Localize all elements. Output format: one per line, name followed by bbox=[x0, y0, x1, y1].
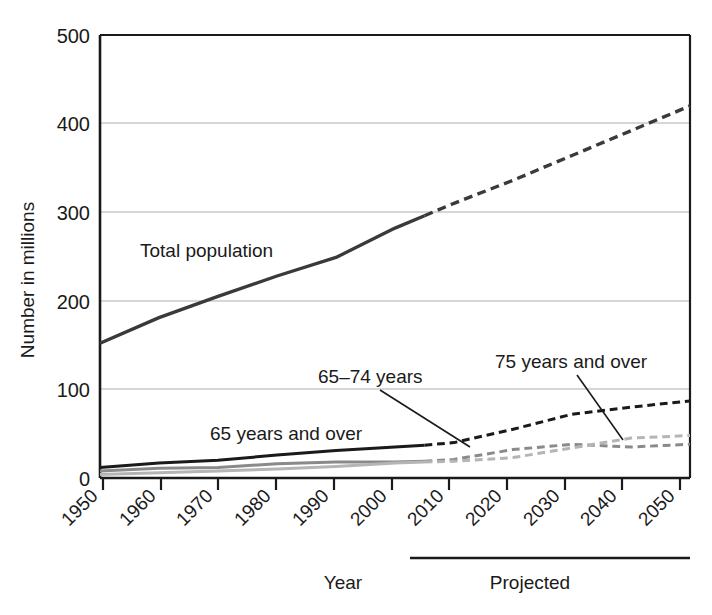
annotation-65-74-years: 65–74 years bbox=[318, 366, 423, 387]
y-tick-100: 100 bbox=[57, 379, 90, 401]
projected-label: Projected bbox=[490, 572, 570, 593]
annotation-75-and-over: 75 years and over bbox=[495, 351, 648, 372]
y-tick-500: 500 bbox=[57, 25, 90, 47]
y-tick-200: 200 bbox=[57, 291, 90, 313]
y-tick-300: 300 bbox=[57, 202, 90, 224]
annotation-65-and-over: 65 years and over bbox=[210, 423, 363, 444]
y-axis-title: Number in millions bbox=[17, 202, 38, 358]
annotation-total-population: Total population bbox=[140, 240, 273, 261]
chart-container: 500 400 300 200 100 0 Number in millions… bbox=[0, 0, 712, 615]
population-projection-line-chart: 500 400 300 200 100 0 Number in millions… bbox=[0, 0, 712, 615]
x-axis-title: Year bbox=[324, 572, 363, 593]
y-tick-400: 400 bbox=[57, 113, 90, 135]
